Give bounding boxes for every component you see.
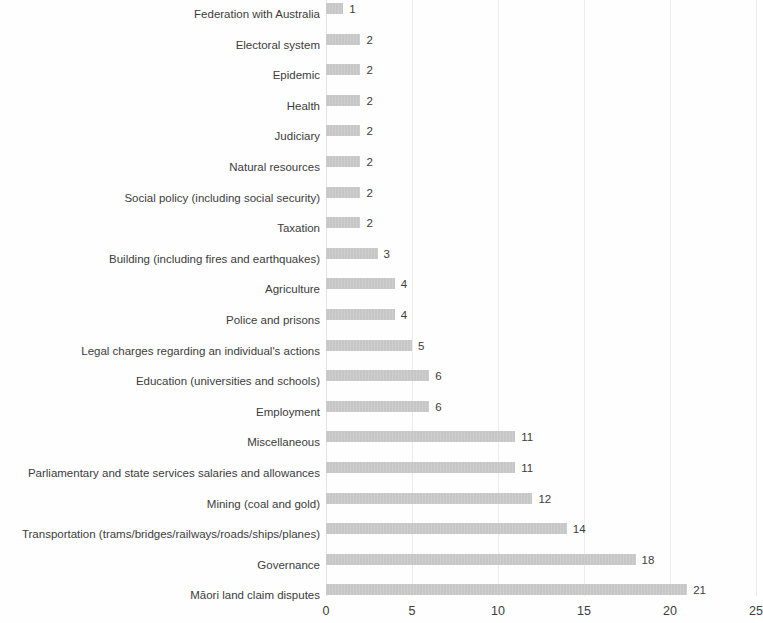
bar xyxy=(326,523,567,534)
gridline-25 xyxy=(756,0,757,596)
category-label-text: Legal charges regarding an individual's … xyxy=(81,345,320,357)
category-label: Parliamentary and state services salarie… xyxy=(28,463,320,481)
bar-value-label: 2 xyxy=(366,35,372,46)
category-label: Governance xyxy=(257,555,320,573)
bar-row-inner: Building (including fires and earthquake… xyxy=(0,245,756,276)
category-label: Education (universities and schools) xyxy=(136,371,320,389)
category-label-text: Judiciary xyxy=(275,130,320,142)
category-label-text: Electoral system xyxy=(236,39,320,51)
bar-value-label: 4 xyxy=(401,310,407,321)
bar-row: Education (universities and schools)6 xyxy=(326,367,756,398)
plot-area: Federation with Australia1Electoral syst… xyxy=(326,0,756,596)
bar-row-inner: Natural resources xyxy=(0,153,756,184)
bar xyxy=(326,493,532,504)
bar-row: Mining (coal and gold)12 xyxy=(326,490,756,521)
x-tick-label-10: 10 xyxy=(491,604,505,618)
bar-row-inner: Electoral system xyxy=(0,31,756,62)
bar-value-label: 18 xyxy=(642,555,655,566)
bar-value-label: 2 xyxy=(366,96,372,107)
bar-row: Agriculture4 xyxy=(326,275,756,306)
bar-row: Transportation (trams/bridges/railways/r… xyxy=(326,520,756,551)
bar xyxy=(326,401,429,412)
category-label-text: Mining (coal and gold) xyxy=(207,498,320,510)
bar-row-inner: Social policy (including social security… xyxy=(0,184,756,215)
bar-row-inner: Taxation xyxy=(0,214,756,245)
bar-row: Miscellaneous11 xyxy=(326,428,756,459)
category-label: Natural resources xyxy=(229,157,320,175)
category-label: Electoral system xyxy=(236,35,320,53)
category-label: Miscellaneous xyxy=(247,432,320,450)
bar-row-inner: Judiciary xyxy=(0,122,756,153)
bar xyxy=(326,187,360,198)
category-label-text: Transportation (trams/bridges/railways/r… xyxy=(22,528,320,540)
bar-row: Building (including fires and earthquake… xyxy=(326,245,756,276)
bar-value-label: 2 xyxy=(366,126,372,137)
category-label: Building (including fires and earthquake… xyxy=(109,249,320,267)
bar-value-label: 6 xyxy=(435,402,441,413)
category-label: Federation with Australia xyxy=(194,4,320,22)
bar xyxy=(326,3,343,14)
bar xyxy=(326,340,412,351)
bar-value-label: 3 xyxy=(384,249,390,260)
bar-value-label: 5 xyxy=(418,341,424,352)
bar-row: Federation with Australia1 xyxy=(326,0,756,31)
bar-value-label: 14 xyxy=(573,524,586,535)
bar xyxy=(326,217,360,228)
x-tick-label-20: 20 xyxy=(663,604,677,618)
category-label: Police and prisons xyxy=(226,310,320,328)
category-label-text: Agriculture xyxy=(265,283,320,295)
category-label: Māori land claim disputes xyxy=(190,585,320,603)
bar xyxy=(326,125,360,136)
bar-value-label: 11 xyxy=(521,463,533,474)
bar-row-inner: Federation with Australia xyxy=(0,0,756,31)
bar xyxy=(326,278,395,289)
category-label: Agriculture xyxy=(265,279,320,297)
category-label-text: Health xyxy=(287,100,320,112)
category-label-text: Miscellaneous xyxy=(247,436,320,448)
bar-row: Epidemic2 xyxy=(326,61,756,92)
category-label: Taxation xyxy=(277,218,320,236)
category-label: Judiciary xyxy=(275,126,320,144)
category-label-text: Employment xyxy=(256,406,320,418)
bar-value-label: 6 xyxy=(435,371,441,382)
bar-value-label: 2 xyxy=(366,65,372,76)
bar-value-label: 2 xyxy=(366,218,372,229)
bar-value-label: 2 xyxy=(366,188,372,199)
bar-value-label: 12 xyxy=(538,494,551,505)
bar xyxy=(326,370,429,381)
bar-row-inner: Health xyxy=(0,92,756,123)
bar xyxy=(326,554,636,565)
bar-row: Police and prisons4 xyxy=(326,306,756,337)
bar-value-label: 2 xyxy=(366,157,372,168)
bar xyxy=(326,156,360,167)
category-label-text: Epidemic xyxy=(273,69,320,81)
category-label-text: Building (including fires and earthquake… xyxy=(109,253,320,265)
category-label-text: Education (universities and schools) xyxy=(136,375,320,387)
bar-row: Employment6 xyxy=(326,398,756,429)
category-label-text: Governance xyxy=(257,559,320,571)
bar-row-inner: Epidemic xyxy=(0,61,756,92)
bar-row: Taxation2 xyxy=(326,214,756,245)
x-axis: 0510152025 xyxy=(326,596,756,623)
bar xyxy=(326,431,515,442)
category-label: Epidemic xyxy=(273,65,320,83)
bar xyxy=(326,248,378,259)
category-label: Employment xyxy=(256,402,320,420)
bar xyxy=(326,584,687,595)
bar-row: Judiciary2 xyxy=(326,122,756,153)
category-label-text: Police and prisons xyxy=(226,314,320,326)
category-label: Transportation (trams/bridges/railways/r… xyxy=(22,524,320,542)
bar-value-label: 4 xyxy=(401,279,407,290)
bar-rows: Federation with Australia1Electoral syst… xyxy=(326,0,756,596)
bar xyxy=(326,462,515,473)
category-label: Mining (coal and gold) xyxy=(207,494,320,512)
bar xyxy=(326,34,360,45)
bar-row: Social policy (including social security… xyxy=(326,184,756,215)
category-label: Legal charges regarding an individual's … xyxy=(81,341,320,359)
bar-value-label: 1 xyxy=(349,4,355,15)
bar-row: Legal charges regarding an individual's … xyxy=(326,337,756,368)
category-label: Health xyxy=(287,96,320,114)
bar-row: Natural resources2 xyxy=(326,153,756,184)
category-label-text: Parliamentary and state services salarie… xyxy=(28,467,320,479)
